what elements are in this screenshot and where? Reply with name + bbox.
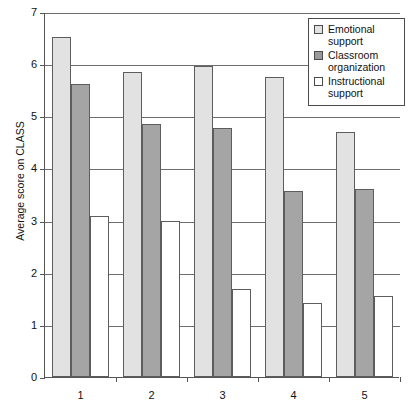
bar [265,77,284,377]
bar [161,221,180,377]
y-tick-label: 1 [19,320,37,331]
x-tick-mark [258,377,259,382]
y-tick-label: 6 [19,59,37,70]
y-tick-label: 0 [19,372,37,383]
bar [336,132,355,377]
y-tick-mark [40,169,45,170]
y-tick-mark [40,378,45,379]
x-tick-label: 3 [203,389,243,401]
bar [213,128,232,377]
y-tick-mark [40,65,45,66]
bar [374,296,393,377]
gridline [45,13,400,14]
legend-item: Instructionalsupport [314,76,399,99]
y-tick-mark [40,274,45,275]
legend-item-label: Instructionalsupport [328,76,399,99]
bar [303,303,322,377]
chart-legend: EmotionalsupportClassroomorganizationIns… [308,18,405,106]
x-tick-label: 5 [345,389,385,401]
x-tick-label: 1 [61,389,101,401]
bar [142,124,161,377]
light-gray-swatch [314,25,323,34]
bar [52,37,71,377]
bar [194,66,213,377]
bar [90,216,109,377]
dark-gray-swatch [314,51,323,60]
legend-item: Emotionalsupport [314,24,399,47]
x-tick-mark [116,377,117,382]
x-tick-label: 4 [274,389,314,401]
legend-item-label: Classroomorganization [328,50,399,73]
bar [71,84,90,377]
legend-item-label: Emotionalsupport [328,24,399,47]
y-tick-label: 4 [19,163,37,174]
x-tick-mark [400,377,401,382]
bar [123,72,142,377]
white-swatch [314,77,323,86]
x-tick-label: 2 [132,389,172,401]
gridline [45,117,400,118]
bar [355,189,374,377]
y-tick-label: 5 [19,111,37,122]
y-tick-label: 2 [19,268,37,279]
x-tick-mark [187,377,188,382]
y-tick-label: 3 [19,216,37,227]
y-tick-label: 7 [19,7,37,18]
y-tick-mark [40,326,45,327]
bar [284,191,303,377]
bar-chart: Average score on CLASS 01234567 12345 Em… [0,0,417,415]
bar [232,289,251,377]
x-tick-mark [329,377,330,382]
y-tick-mark [40,222,45,223]
y-tick-mark [40,13,45,14]
y-tick-mark [40,117,45,118]
legend-item: Classroomorganization [314,50,399,73]
